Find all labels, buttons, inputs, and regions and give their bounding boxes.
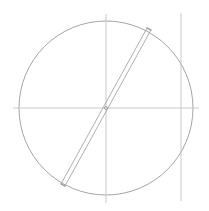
diameter-bar-edge-a	[61, 28, 147, 184]
diameter-bar-cap-top	[146, 28, 151, 31]
diagram-canvas	[0, 0, 209, 211]
